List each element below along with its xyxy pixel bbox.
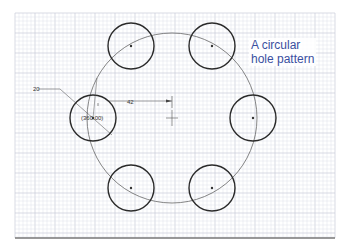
hole-center-point (211, 45, 213, 47)
diameter-label: 20 (33, 86, 40, 92)
hole-center-point (252, 117, 254, 119)
hole-center-point (130, 187, 132, 189)
angle-label: (360.00) (81, 115, 103, 121)
hole-center-point (130, 45, 132, 47)
hole-center-point (211, 187, 213, 189)
caption: A circular hole pattern (249, 38, 316, 66)
distance-label: 42 (127, 99, 134, 105)
center-crosshair-icon (166, 110, 178, 126)
caption-line-2: hole pattern (251, 52, 314, 66)
caption-line-1: A circular (251, 38, 314, 52)
